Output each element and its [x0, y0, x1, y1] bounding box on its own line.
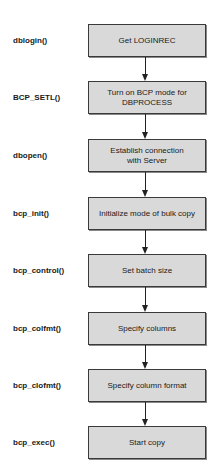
arrowhead-icon: [142, 190, 148, 197]
step-action-text: Set batch size: [122, 266, 172, 276]
step-box: Specify columns: [88, 312, 206, 345]
arrow-shaft: [145, 402, 146, 420]
step-action-text: Start copy: [129, 438, 165, 448]
flow-arrow: [141, 57, 151, 81]
function-label: bcp_exec(): [13, 438, 87, 448]
arrowhead-icon: [142, 305, 148, 312]
step-action-text: Initialize mode of bulk copy: [99, 209, 195, 219]
bcp-flowchart: dblogin()Get LOGINRECBCP_SETL()Turn on B…: [0, 0, 221, 476]
function-label: bcp_init(): [13, 209, 87, 219]
arrowhead-icon: [142, 247, 148, 254]
flow-arrow: [141, 114, 151, 139]
arrowhead-icon: [142, 74, 148, 81]
arrow-shaft: [145, 230, 146, 248]
arrowhead-icon: [142, 362, 148, 369]
step-box: Start copy: [88, 426, 206, 459]
function-label: bcp_clofmt(): [13, 381, 87, 391]
arrow-shaft: [145, 287, 146, 306]
flow-arrow: [141, 345, 151, 369]
step-action-text: Specify columns: [118, 324, 176, 334]
arrow-shaft: [145, 57, 146, 75]
arrowhead-icon: [142, 419, 148, 426]
step-box: Set batch size: [88, 254, 206, 287]
step-action-text: Specify column format: [107, 381, 186, 391]
step-action-text: Turn on BCP mode for DBPROCESS: [107, 88, 187, 108]
function-label: bcp_colfmt(): [13, 324, 87, 334]
arrow-shaft: [145, 172, 146, 191]
arrowhead-icon: [142, 132, 148, 139]
flow-arrow: [141, 172, 151, 197]
arrow-shaft: [145, 114, 146, 133]
arrow-shaft: [145, 345, 146, 363]
flow-arrow: [141, 230, 151, 254]
function-label: bcp_control(): [13, 266, 87, 276]
flow-arrow: [141, 287, 151, 312]
step-action-text: Establish connection with Server: [110, 146, 183, 166]
function-label: dblogin(): [13, 36, 87, 46]
function-label: BCP_SETL(): [13, 93, 87, 103]
step-box: Get LOGINREC: [88, 24, 206, 57]
flow-arrow: [141, 402, 151, 426]
step-action-text: Get LOGINREC: [119, 36, 176, 46]
function-label: dbopen(): [13, 151, 87, 161]
step-box: Establish connection with Server: [88, 139, 206, 172]
step-box: Initialize mode of bulk copy: [88, 197, 206, 230]
step-box: Specify column format: [88, 369, 206, 402]
step-box: Turn on BCP mode for DBPROCESS: [88, 81, 206, 114]
